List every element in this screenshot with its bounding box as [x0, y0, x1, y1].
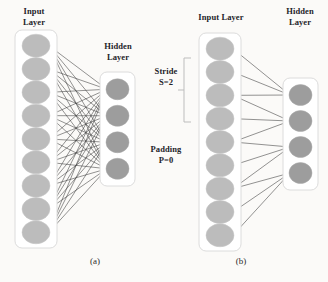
edge [49, 116, 107, 233]
edge [49, 142, 107, 232]
diagram-b-input-node-4 [206, 131, 234, 154]
edge [49, 116, 107, 209]
diagram-b-input-node-8 [206, 224, 234, 247]
edge [49, 69, 107, 116]
diagram-b-hidden-node-1 [289, 111, 312, 132]
edge [49, 69, 107, 89]
diagram-a-input-node-7 [22, 198, 50, 221]
diagram-a-input-node-2 [22, 81, 50, 104]
edge [49, 162, 107, 168]
diagram-b-input-node-6 [206, 177, 234, 200]
diagram-a-input-node-0 [22, 34, 50, 57]
edge [49, 116, 107, 143]
diagram-a [15, 30, 135, 248]
diagram-a-input-node-1 [22, 58, 50, 81]
diagram-a-input-nodes [22, 34, 50, 244]
diagram-b-input-node-7 [206, 201, 234, 224]
diagram-b-input-node-0 [206, 37, 234, 60]
diagram-a-input-node-4 [22, 128, 50, 151]
network-diagram-svg [0, 0, 328, 282]
diagram-a-input-node-3 [22, 104, 50, 127]
diagram-a-input-layer-label: Input Layer [10, 6, 58, 27]
diagram-a-input-node-5 [22, 151, 50, 174]
diagram-a-input-node-8 [22, 221, 50, 244]
diagram-b-input-layer-label: Input Layer [188, 12, 254, 23]
edge [49, 89, 107, 115]
edge [49, 139, 107, 142]
diagram-a-hidden-node-2 [106, 132, 129, 153]
figure-canvas: Input Layer Hidden Layer Input Layer Hid… [0, 0, 328, 282]
panel-a-caption: (a) [72, 256, 118, 266]
diagram-a-hidden-node-0 [106, 79, 129, 100]
diagram-a-hidden-node-1 [106, 105, 129, 126]
diagram-a-hidden-node-3 [106, 158, 129, 179]
diagram-b-hidden-layer-label: Hidden Layer [274, 6, 326, 27]
edge [49, 89, 107, 162]
diagram-b-input-node-1 [206, 61, 234, 84]
diagram-b [199, 33, 318, 251]
diagram-b-hidden-node-2 [289, 137, 312, 158]
diagram-b-input-node-2 [206, 84, 234, 107]
panel-b-caption: (b) [218, 256, 264, 266]
diagram-a-dense-edges [49, 46, 107, 233]
diagram-a-hidden-layer-label: Hidden Layer [95, 41, 141, 62]
edge [49, 169, 107, 233]
diagram-b-hidden-node-0 [289, 85, 312, 106]
padding-annotation: Padding P=0 [138, 144, 194, 165]
diagram-a-input-node-6 [22, 174, 50, 197]
diagram-b-input-node-3 [206, 107, 234, 130]
diagram-b-input-nodes [206, 37, 234, 247]
edge [49, 89, 107, 92]
stride-annotation: Stride S=2 [141, 66, 191, 87]
diagram-b-hidden-node-3 [289, 163, 312, 184]
diagram-b-input-node-5 [206, 154, 234, 177]
